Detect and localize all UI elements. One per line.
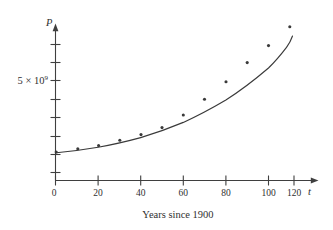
data-point <box>160 126 163 129</box>
data-point <box>203 98 206 101</box>
data-point <box>224 80 227 83</box>
x-tick-label-60: 60 <box>179 188 189 198</box>
x-tick-label-40: 40 <box>136 188 146 198</box>
x-tick-label-20: 20 <box>93 188 103 198</box>
scatter-plot-canvas: P t 5 × 109 0 20 40 60 80 100 120 Years … <box>0 0 333 230</box>
y-axis-label: P <box>45 17 53 28</box>
data-point <box>246 61 249 64</box>
x-tick-label-0: 0 <box>52 188 57 198</box>
x-tick-label-120: 120 <box>287 188 302 198</box>
y-tick-label-5e9: 5 × 109 <box>18 74 49 86</box>
x-tick-label-100: 100 <box>261 188 276 198</box>
data-point <box>55 150 58 153</box>
y-tick-label-exponent: 9 <box>45 74 49 82</box>
data-point <box>76 147 79 150</box>
y-tick-label-mantissa: 5 × 10 <box>18 75 45 86</box>
population-growth-figure: P t 5 × 109 0 20 40 60 80 100 120 Years … <box>0 0 333 230</box>
x-tick-label-80: 80 <box>221 188 231 198</box>
data-point <box>118 139 121 142</box>
data-point <box>182 113 185 116</box>
data-point <box>288 25 291 28</box>
plot-background <box>0 0 333 230</box>
data-point <box>267 44 270 47</box>
figure-caption: Years since 1900 <box>142 209 213 220</box>
data-point <box>97 144 100 147</box>
data-point <box>139 133 142 136</box>
